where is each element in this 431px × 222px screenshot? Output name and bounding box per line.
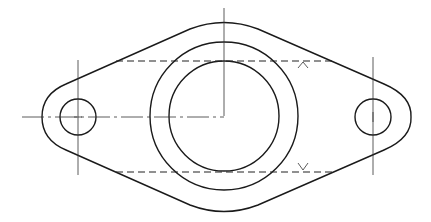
section-mark-bottom-icon: [298, 163, 308, 170]
section-mark-top-icon: [298, 62, 308, 68]
technical-drawing: [0, 0, 431, 222]
